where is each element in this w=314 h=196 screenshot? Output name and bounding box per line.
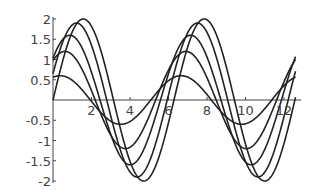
y-tick-label: 1.5 [30, 32, 51, 47]
x-tick-label: 8 [203, 103, 211, 118]
y-tick-label: -1.5 [26, 154, 51, 169]
x-tick-label: 4 [126, 103, 134, 118]
x-tick-label: 2 [87, 103, 95, 118]
x-tick-label: 6 [164, 103, 172, 118]
y-tick-label: -0.5 [26, 113, 51, 128]
y-tick-label: 2 [43, 12, 51, 27]
y-tick-label: -1 [38, 134, 51, 149]
y-tick-label: -2 [38, 174, 51, 189]
x-tick-label: 12 [276, 103, 293, 118]
y-tick-label: 0.5 [30, 73, 51, 88]
chart: 2468101221.510.5-0.5-1-1.5-2 [0, 0, 314, 196]
x-tick-label: 10 [237, 103, 254, 118]
y-tick-label: 1 [43, 53, 51, 68]
